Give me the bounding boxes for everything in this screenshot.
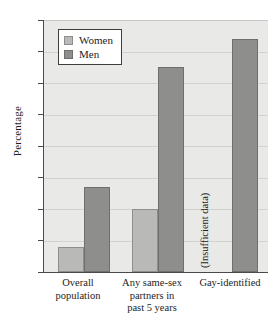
legend-label-men: Men (79, 49, 99, 60)
y-axis-title: Percentage (11, 76, 23, 186)
legend-label-women: Women (79, 35, 113, 46)
plot-area: (Insufficient data) Women Men (43, 20, 268, 273)
women-swatch-icon (64, 36, 73, 45)
insufficient-data-annotation: (Insufficient data) (199, 193, 210, 268)
legend-item-women: Women (64, 33, 113, 47)
bar-overall-population-men (84, 187, 110, 272)
bar-overall-population-women (58, 247, 84, 272)
legend-item-men: Men (64, 47, 113, 61)
x-axis-label-overall-population: Overall population (38, 277, 118, 302)
x-axis-label-gay-identified: Gay-identified (188, 277, 272, 290)
bar-any-same-sex-partners-women (132, 209, 158, 272)
legend: Women Men (58, 29, 122, 65)
gridline-80 (44, 20, 268, 21)
x-label-line: Overall (38, 277, 118, 290)
men-swatch-icon (64, 50, 73, 59)
x-label-line: Any same-sex (112, 277, 192, 290)
bar-gay-identified-men (232, 39, 258, 272)
x-axis-label-any-same-sex-partners: Any same-sex partners in past 5 years (112, 277, 192, 315)
bar-chart: Percentage 80 70 60 50 40 30 20 10 0 (In… (0, 0, 275, 322)
x-label-line: Gay-identified (188, 277, 272, 290)
x-label-line: population (38, 290, 118, 303)
x-label-line: partners in (112, 290, 192, 303)
bar-any-same-sex-partners-men (158, 67, 184, 272)
x-label-line: past 5 years (112, 302, 192, 315)
